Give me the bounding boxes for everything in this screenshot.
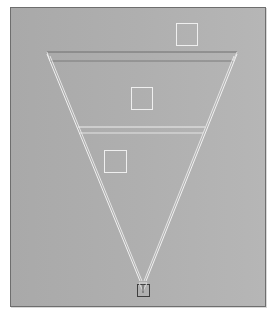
frustum-left-edge (47, 54, 142, 281)
frustum-right-edge (144, 54, 237, 281)
camera-icon[interactable] (138, 283, 150, 297)
square-marker-icon[interactable] (105, 151, 127, 173)
frustum-diagram (0, 0, 274, 319)
square-marker-icon[interactable] (132, 88, 153, 110)
square-marker-icon[interactable] (177, 24, 198, 46)
far-plane (47, 52, 237, 61)
mid-plane (78, 127, 205, 133)
